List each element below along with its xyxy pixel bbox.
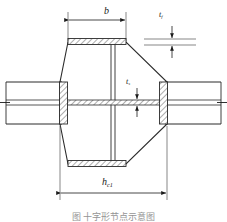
left-beam	[0, 82, 62, 124]
label-column-depth: hc1	[102, 177, 113, 187]
label-top-width: b	[104, 6, 109, 16]
horizontal-stiffener-plate	[60, 100, 167, 105]
dimension-b	[68, 12, 126, 41]
right-beam	[165, 82, 227, 124]
left-column-flange	[60, 82, 68, 124]
label-stiffener-thickness: ts	[126, 78, 130, 86]
joint-diagram	[0, 0, 227, 222]
label-flange-thickness: tf	[159, 11, 163, 19]
top-flange-plate	[68, 39, 126, 45]
right-column-flange	[160, 82, 168, 124]
figure-caption: 图 十字形节点示意图	[0, 210, 227, 222]
figure-container: b tf ts hc1 图 十字形节点示意图	[0, 0, 227, 222]
bottom-flange-plate	[68, 161, 126, 167]
dimension-tf	[144, 26, 196, 58]
